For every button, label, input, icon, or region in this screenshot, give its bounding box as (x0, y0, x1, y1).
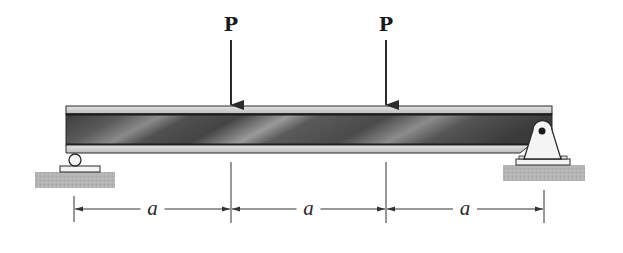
dimension-label: a (303, 196, 314, 220)
left-support-plate (60, 166, 100, 172)
beam-diagram: P P aaa (0, 0, 623, 253)
dimension-label: a (460, 196, 471, 220)
dimension-arrowhead-icon (535, 207, 543, 212)
load-label: P (379, 13, 393, 35)
load-1: P (224, 13, 238, 105)
pin-icon (539, 128, 546, 135)
right-support-plate (516, 159, 570, 165)
dimension-arrowhead-icon (75, 207, 83, 212)
left-ground (35, 172, 115, 188)
load-2: P (379, 13, 393, 105)
dimension-arrowhead-icon (387, 207, 395, 212)
beam-bottom-flange (66, 145, 530, 153)
roller-icon (69, 154, 81, 166)
dimension-arrowhead-icon (222, 207, 230, 212)
dimension-lines: aaa (75, 196, 543, 220)
dimension-arrowhead-icon (232, 207, 240, 212)
load-label: P (224, 13, 238, 35)
dimension-label: a (147, 196, 158, 220)
beam-web (66, 114, 552, 145)
right-ground (503, 165, 585, 181)
dimension-arrowhead-icon (377, 207, 385, 212)
bolt-icon (561, 156, 567, 159)
beam-top-flange (66, 106, 552, 114)
